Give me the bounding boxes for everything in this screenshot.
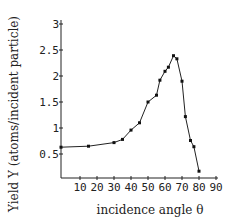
yield-vs-angle-chart: 0.511.522.53 102030405060708090 incidenc… bbox=[0, 0, 233, 224]
data-point bbox=[181, 80, 184, 83]
x-tick-label: 70 bbox=[175, 181, 188, 194]
data-point bbox=[189, 139, 192, 142]
x-axis-label: incidence angle θ bbox=[97, 203, 204, 217]
x-tick-label: 30 bbox=[107, 181, 120, 194]
y-tick-label: 1.5 bbox=[39, 96, 59, 109]
data-point bbox=[192, 145, 195, 148]
x-tick-label: 90 bbox=[209, 181, 222, 194]
x-tick-label: 20 bbox=[90, 181, 103, 194]
data-point bbox=[60, 146, 63, 149]
x-tick-label: 50 bbox=[141, 181, 154, 194]
data-point bbox=[138, 121, 141, 124]
y-axis-ticks: 0.511.522.53 bbox=[39, 18, 63, 161]
data-point bbox=[164, 70, 167, 73]
x-axis-ticks: 102030405060708090 bbox=[73, 176, 222, 194]
y-tick-label: 1 bbox=[52, 122, 59, 135]
x-tick-label: 10 bbox=[73, 181, 86, 194]
data-point bbox=[147, 101, 150, 104]
data-point bbox=[113, 141, 116, 144]
data-point bbox=[155, 94, 158, 97]
y-tick-label: 2.5 bbox=[39, 44, 59, 57]
data-point bbox=[198, 170, 201, 173]
axes bbox=[61, 20, 218, 178]
data-point-markers bbox=[60, 54, 201, 173]
data-point bbox=[167, 66, 170, 69]
data-point bbox=[184, 115, 187, 118]
y-tick-label: 2 bbox=[52, 70, 59, 83]
y-tick-label: 0.5 bbox=[39, 148, 59, 161]
x-tick-label: 40 bbox=[124, 181, 137, 194]
yield-line bbox=[61, 56, 199, 172]
x-tick-label: 80 bbox=[192, 181, 205, 194]
y-axis-label: Yield Y (atoms/incident particle) bbox=[7, 16, 21, 213]
y-tick-label: 3 bbox=[52, 18, 59, 31]
data-point bbox=[130, 129, 133, 132]
x-tick-label: 60 bbox=[158, 181, 171, 194]
data-point bbox=[87, 145, 90, 148]
data-point bbox=[121, 138, 124, 141]
data-point bbox=[158, 79, 161, 82]
data-point bbox=[172, 54, 175, 57]
data-point bbox=[175, 57, 178, 60]
